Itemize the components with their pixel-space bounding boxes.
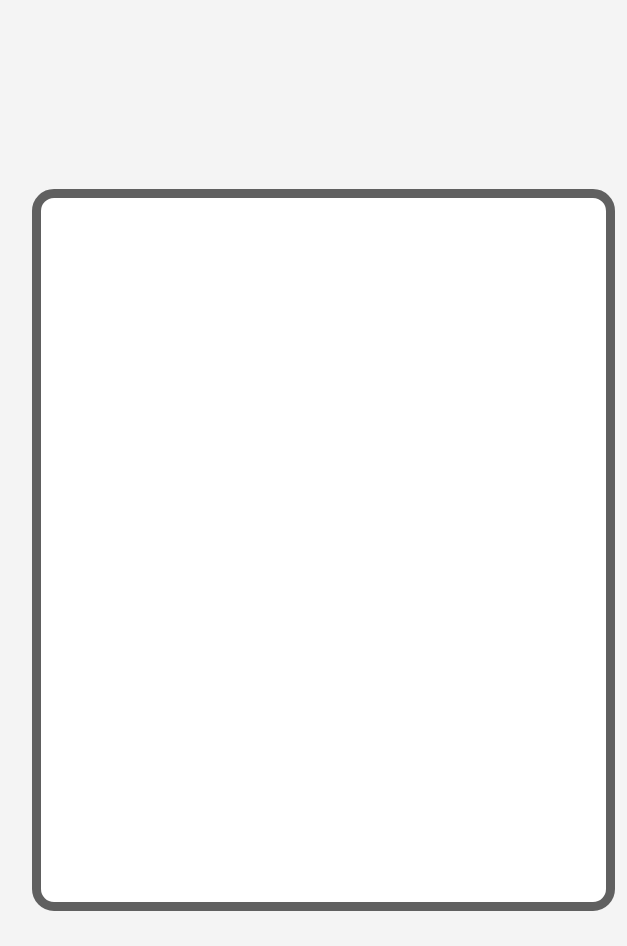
frame-content-area (41, 198, 606, 902)
empty-rounded-frame (32, 189, 615, 911)
